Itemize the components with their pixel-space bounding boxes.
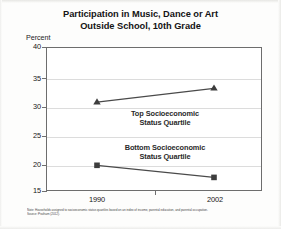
y-tick-label-15: 15: [1, 186, 41, 195]
y-tick-20: [42, 165, 47, 166]
y-tick-label-35: 35: [1, 74, 41, 83]
chart-footnote: Note: Households assigned to socioeconom…: [27, 208, 263, 216]
y-axis-label: Percent: [26, 33, 50, 42]
gridline-20: [47, 166, 261, 167]
x-tick-label-1990: 1990: [74, 195, 120, 204]
gridline-35: [47, 79, 261, 80]
x-tick-label-2002: 2002: [192, 195, 238, 204]
scan-edge-bottom: [0, 226, 281, 229]
y-tick-25: [42, 136, 47, 137]
y-tick-label-25: 25: [1, 131, 41, 140]
chart-page: Participation in Music, Dance or Art Out…: [0, 0, 281, 229]
series-annotation-bottom-quartile: Bottom Socioeconomic Status Quartile: [100, 143, 230, 161]
y-tick-label-20: 20: [1, 160, 41, 169]
series-annotation-bottom-line-2: Status Quartile: [100, 152, 230, 161]
y-tick-label-30: 30: [1, 102, 41, 111]
scan-edge-top: [0, 0, 281, 3]
gridline-25: [47, 137, 261, 138]
chart-title: Participation in Music, Dance or Art Out…: [0, 9, 281, 32]
y-tick-35: [42, 78, 47, 79]
y-tick-15: [42, 191, 47, 192]
series-annotation-top-quartile: Top Socioeconomic Status Quartile: [105, 109, 225, 127]
footnote-source: Source: Pratham (2012).: [27, 212, 263, 216]
y-tick-40: [42, 47, 47, 48]
chart-title-line-1: Participation in Music, Dance or Art: [0, 9, 281, 21]
x-tick-center: [155, 191, 156, 195]
y-tick-30: [42, 107, 47, 108]
scan-edge-right: [278, 0, 281, 229]
series-annotation-top-line-2: Status Quartile: [105, 118, 225, 127]
series-annotation-bottom-line-1: Bottom Socioeconomic: [100, 143, 230, 152]
chart-title-line-2: Outside School, 10th Grade: [0, 21, 281, 33]
y-tick-label-40: 40: [1, 42, 41, 51]
series-annotation-top-line-1: Top Socioeconomic: [105, 109, 225, 118]
